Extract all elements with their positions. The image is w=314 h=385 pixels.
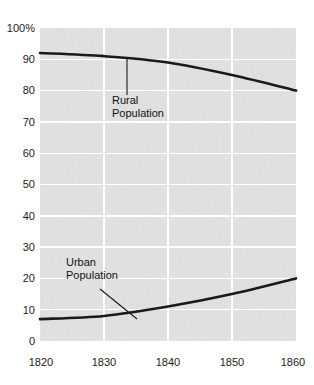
- chart-canvas: 100% 90 80 70 60 50 40 30 20 10 0 1820 1…: [0, 0, 314, 385]
- y-tick-10: 10: [23, 304, 35, 316]
- y-tick-0: 0: [29, 335, 35, 347]
- urban-label-line2: Population: [66, 269, 118, 281]
- y-tick-80: 80: [23, 84, 35, 96]
- y-tick-20: 20: [23, 272, 35, 284]
- y-tick-50: 50: [23, 178, 35, 190]
- x-tick-1850: 1850: [220, 356, 244, 368]
- x-tick-1830: 1830: [92, 356, 116, 368]
- x-tick-1820: 1820: [29, 356, 53, 368]
- y-tick-30: 30: [23, 241, 35, 253]
- x-tick-1860: 1860: [281, 356, 305, 368]
- rural-label-line2: Population: [112, 107, 164, 119]
- urban-label-line1: Urban: [66, 256, 96, 268]
- x-tick-1840: 1840: [156, 356, 180, 368]
- y-tick-90: 90: [23, 53, 35, 65]
- y-tick-100: 100%: [7, 22, 35, 34]
- y-tick-70: 70: [23, 116, 35, 128]
- y-tick-60: 60: [23, 147, 35, 159]
- population-line-chart: 100% 90 80 70 60 50 40 30 20 10 0 1820 1…: [0, 0, 314, 385]
- y-tick-40: 40: [23, 210, 35, 222]
- rural-label-line1: Rural: [112, 94, 138, 106]
